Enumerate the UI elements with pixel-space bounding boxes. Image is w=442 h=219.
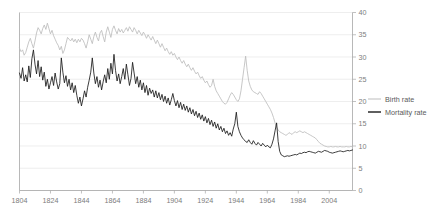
x-tick-label-1964: 1964	[259, 196, 275, 205]
data-series	[20, 23, 353, 157]
legend-label-birth-rate: Birth rate	[385, 95, 414, 104]
x-tick-label-1944: 1944	[228, 196, 244, 205]
x-tick-label-1984: 1984	[290, 196, 306, 205]
y-tick-label-35: 35	[359, 30, 367, 39]
y-tick-label-5: 5	[359, 164, 363, 173]
x-tick-label-1864: 1864	[104, 196, 120, 205]
y-tick-label-25: 25	[359, 75, 367, 84]
y-tick-label-20: 20	[359, 97, 367, 106]
x-tick-label-2004: 2004	[321, 196, 337, 205]
y-tick-label-30: 30	[359, 53, 367, 62]
chart-legend: Birth rateMortality rate	[368, 95, 427, 117]
x-tick-label-1904: 1904	[166, 196, 182, 205]
x-tick-label-1804: 1804	[12, 196, 28, 205]
x-tick-label-1824: 1824	[42, 196, 58, 205]
y-axis-labels: 0510152025303540	[359, 8, 367, 195]
y-tick-label-15: 15	[359, 119, 367, 128]
x-axis-labels: 1804182418441864188419041924194419641984…	[12, 196, 338, 205]
chart-container: 1804182418441864188419041924194419641984…	[0, 0, 442, 219]
x-tick-label-1884: 1884	[135, 196, 151, 205]
line-chart: 1804182418441864188419041924194419641984…	[0, 0, 442, 219]
x-tick-label-1844: 1844	[73, 196, 89, 205]
legend-label-mortality-rate: Mortality rate	[385, 108, 427, 117]
series-line-birth-rate	[20, 23, 353, 147]
y-tick-label-40: 40	[359, 8, 367, 17]
y-tick-label-10: 10	[359, 142, 367, 151]
y-tick-label-0: 0	[359, 186, 363, 195]
x-tick-label-1924: 1924	[197, 196, 213, 205]
